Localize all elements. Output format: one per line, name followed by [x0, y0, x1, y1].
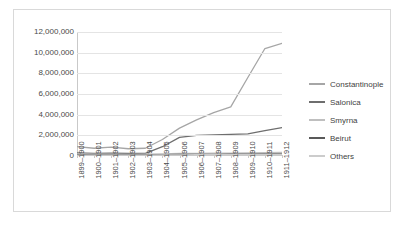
x-axis-tick: 1906–1907: [191, 158, 203, 214]
y-axis-tick-label: 6,000,000: [16, 90, 74, 98]
chart-legend: ConstantinopleSalonicaSmyrnaBeirutOthers: [309, 76, 404, 166]
gridline: [77, 115, 282, 116]
x-axis-tick: 1909–1910: [242, 158, 254, 214]
x-axis: 1899–19001900–19011901–19021902–19031903…: [77, 158, 282, 216]
y-axis-tick-label: 2,000,000: [16, 131, 74, 139]
x-axis-tick-label: 1904–1905: [162, 141, 171, 179]
legend-label: Salonica: [330, 98, 361, 107]
x-axis-tick: 1907–1908: [208, 158, 220, 214]
legend-swatch-icon: [309, 101, 325, 103]
legend-item[interactable]: Smyrna: [309, 112, 404, 128]
y-axis-tick-label: 12,000,000: [16, 28, 74, 36]
x-axis-tick-label: 1907–1908: [214, 141, 223, 179]
gridline: [77, 135, 282, 136]
legend-item[interactable]: Others: [309, 148, 404, 164]
x-axis-tick-label: 1911–1912: [282, 142, 291, 179]
x-axis-tick: 1905–1906: [174, 158, 186, 214]
x-axis-tick-label: 1910–1911: [265, 142, 274, 179]
legend-label: Beirut: [330, 134, 351, 143]
x-axis-tick-label: 1901–1902: [111, 141, 120, 179]
gridline: [77, 94, 282, 95]
x-axis-tick: 1901–1902: [105, 158, 117, 214]
legend-swatch-icon: [309, 83, 325, 85]
x-axis-tick-label: 1900–1901: [94, 141, 103, 179]
x-axis-tick: 1908–1909: [225, 158, 237, 214]
legend-label: Constantinople: [330, 80, 383, 89]
x-axis-tick: 1903–1904: [139, 158, 151, 214]
y-axis-tick-label: 4,000,000: [16, 111, 74, 119]
x-axis-tick-label: 1903–1904: [145, 141, 154, 179]
x-axis-tick: 1902–1903: [122, 158, 134, 214]
x-axis-tick-label: 1906–1907: [197, 141, 206, 179]
y-axis-tick-label: 0: [16, 152, 74, 160]
legend-item[interactable]: Beirut: [309, 130, 404, 146]
x-axis-tick: 1904–1905: [156, 158, 168, 214]
x-axis-tick-label: 1909–1910: [248, 141, 257, 179]
gridline: [77, 53, 282, 54]
x-axis-tick-label: 1905–1906: [180, 141, 189, 179]
y-axis-tick-label: 8,000,000: [16, 69, 74, 77]
legend-label: Smyrna: [330, 116, 358, 125]
legend-swatch-icon: [309, 137, 325, 139]
gridline: [77, 32, 282, 33]
legend-item[interactable]: Salonica: [309, 94, 404, 110]
plot-area: [77, 32, 282, 156]
x-axis-tick: 1910–1911: [259, 158, 271, 214]
y-axis: 12,000,00010,000,0008,000,0006,000,0004,…: [14, 32, 74, 156]
legend-label: Others: [330, 152, 354, 161]
chart-container: 12,000,00010,000,0008,000,0006,000,0004,…: [13, 9, 391, 212]
legend-item[interactable]: Constantinople: [309, 76, 404, 92]
gridline: [77, 73, 282, 74]
x-axis-tick-label: 1899–1900: [77, 141, 86, 179]
legend-swatch-icon: [309, 119, 325, 121]
y-axis-tick-label: 10,000,000: [16, 49, 74, 57]
legend-swatch-icon: [309, 155, 325, 157]
x-axis-tick-label: 1902–1903: [128, 141, 137, 179]
x-axis-tick-label: 1908–1909: [231, 141, 240, 179]
x-axis-tick: 1911–1912: [276, 158, 288, 214]
x-axis-tick: 1899–1900: [71, 158, 83, 214]
x-axis-tick: 1900–1901: [88, 158, 100, 214]
